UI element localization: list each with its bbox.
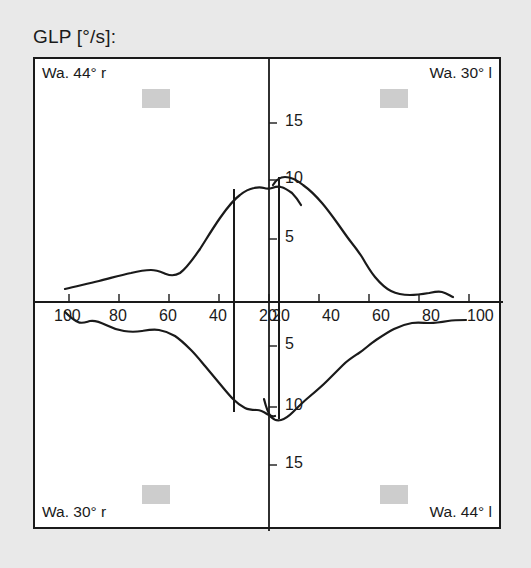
chart-canvas (35, 59, 503, 531)
x-ticks-left (69, 294, 269, 302)
legend-swatch-bottom-left (142, 485, 170, 504)
curve-bottom-left (65, 312, 275, 416)
plot-frame: Wa. 44° r Wa. 30° l Wa. 30° r Wa. 44° l … (33, 57, 501, 529)
xtick-right-40: 40 (322, 307, 340, 325)
xtick-left-40: 40 (209, 307, 227, 325)
xtick-left-60: 60 (159, 307, 177, 325)
xtick-right-60: 60 (372, 307, 390, 325)
xtick-right-80: 80 (422, 307, 440, 325)
ytick-bottom-10: 10 (285, 396, 303, 414)
xtick-right-20: 20 (272, 307, 290, 325)
xtick-right-100: 100 (467, 307, 494, 325)
xtick-left-100: 100 (54, 307, 81, 325)
panel-label-bottom-right: Wa. 44° l (430, 503, 492, 521)
legend-swatch-bottom-right (380, 485, 408, 504)
panel-label-top-right: Wa. 30° l (430, 64, 492, 82)
ytick-top-5: 5 (285, 228, 294, 246)
page-title: GLP [°/s]: (33, 26, 116, 48)
legend-swatch-top-left (142, 89, 170, 108)
ytick-bottom-5: 5 (285, 335, 294, 353)
xtick-left-80: 80 (109, 307, 127, 325)
ytick-top-10: 10 (285, 169, 303, 187)
ytick-top-15: 15 (285, 112, 303, 130)
chart-page: GLP [°/s]: (0, 0, 531, 568)
curve-top-left (65, 187, 301, 289)
panel-label-top-left: Wa. 44° r (42, 64, 106, 82)
legend-swatch-top-right (380, 89, 408, 108)
ytick-bottom-15: 15 (285, 454, 303, 472)
curve-top-right (273, 177, 453, 297)
x-ticks-right (319, 294, 469, 302)
panel-label-bottom-left: Wa. 30° r (42, 503, 106, 521)
